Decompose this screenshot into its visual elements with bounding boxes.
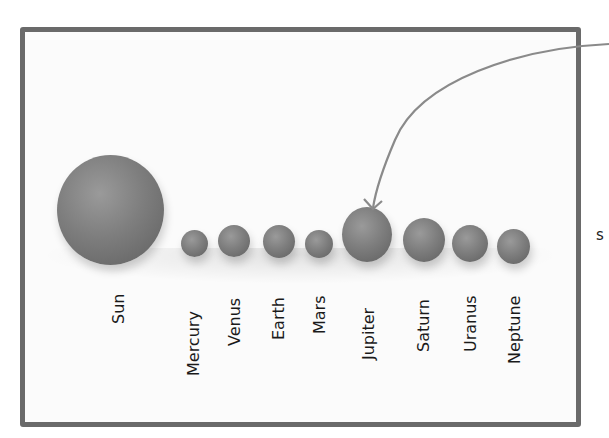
label-mars: Mars xyxy=(311,295,329,334)
ball-venus xyxy=(218,225,250,257)
label-uranus: Uranus xyxy=(462,295,480,352)
label-venus: Venus xyxy=(226,298,244,346)
ball-earth xyxy=(263,225,295,258)
ball-sun xyxy=(57,155,164,265)
ball-mercury xyxy=(181,230,208,257)
ball-saturn xyxy=(403,218,445,262)
label-neptune: Neptune xyxy=(506,296,524,364)
label-saturn: Saturn xyxy=(415,299,433,352)
cropped-caption-text: s xyxy=(596,226,604,244)
ball-jupiter xyxy=(342,207,392,262)
label-earth: Earth xyxy=(270,297,288,340)
ball-uranus xyxy=(452,225,488,262)
label-jupiter: Jupiter xyxy=(360,308,378,360)
label-mercury: Mercury xyxy=(185,311,203,376)
ball-neptune xyxy=(497,229,530,264)
ball-mars xyxy=(305,230,333,258)
label-sun: Sun xyxy=(110,294,128,324)
